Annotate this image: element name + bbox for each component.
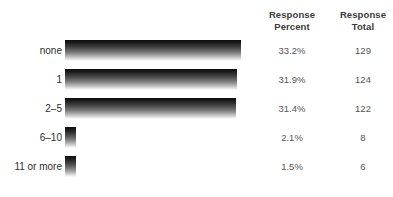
response-bar-chart: Response Percent Response Total none33.2…: [0, 0, 393, 197]
row-response-total: 129: [333, 40, 393, 61]
row-response-percent: 1.5%: [254, 156, 330, 177]
row-response-total: 124: [333, 69, 393, 90]
bar-track: [65, 127, 76, 148]
row-category-label: 2–5: [0, 98, 62, 119]
row-response-total: 122: [333, 98, 393, 119]
gradient-bar: [65, 69, 237, 90]
column-header-response-percent-line1: Response: [254, 9, 330, 21]
row-response-percent: 31.4%: [254, 98, 330, 119]
column-header-response-total: Response Total: [333, 9, 393, 32]
bar-track: [65, 69, 237, 90]
column-header-response-percent-line2: Percent: [254, 21, 330, 33]
chart-row: 11 or more1.5%6: [0, 156, 393, 177]
column-header-response-percent: Response Percent: [254, 9, 330, 32]
row-response-percent: 33.2%: [254, 40, 330, 61]
row-response-total: 6: [333, 156, 393, 177]
chart-row: 131.9%124: [0, 69, 393, 90]
row-response-percent: 2.1%: [254, 127, 330, 148]
column-header-response-total-line1: Response: [333, 9, 393, 21]
row-category-label: 6–10: [0, 127, 62, 148]
bar-track: [65, 40, 241, 61]
row-category-label: none: [0, 40, 62, 61]
bar-track: [65, 98, 236, 119]
row-response-percent: 31.9%: [254, 69, 330, 90]
row-category-label: 11 or more: [0, 156, 62, 177]
gradient-bar: [65, 156, 76, 177]
row-response-total: 8: [333, 127, 393, 148]
gradient-bar: [65, 98, 236, 119]
chart-row: none33.2%129: [0, 40, 393, 61]
bar-track: [65, 156, 76, 177]
chart-row: 6–102.1%8: [0, 127, 393, 148]
gradient-bar: [65, 127, 76, 148]
chart-row: 2–531.4%122: [0, 98, 393, 119]
gradient-bar: [65, 40, 241, 61]
column-header-response-total-line2: Total: [333, 21, 393, 33]
row-category-label: 1: [0, 69, 62, 90]
